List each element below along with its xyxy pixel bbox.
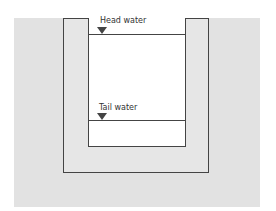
left-wall-top xyxy=(63,18,89,19)
channel-interior xyxy=(88,18,186,147)
right-wall-top xyxy=(185,18,209,19)
tail-water-level-icon xyxy=(97,113,107,120)
head-water-label: Head water xyxy=(100,16,146,25)
tail-water-label: Tail water xyxy=(99,103,137,112)
tail-water-line xyxy=(88,120,186,121)
head-water-line xyxy=(88,34,186,35)
channel-diagram: Head water Tail water xyxy=(0,0,276,211)
head-water-level-icon xyxy=(97,27,107,34)
